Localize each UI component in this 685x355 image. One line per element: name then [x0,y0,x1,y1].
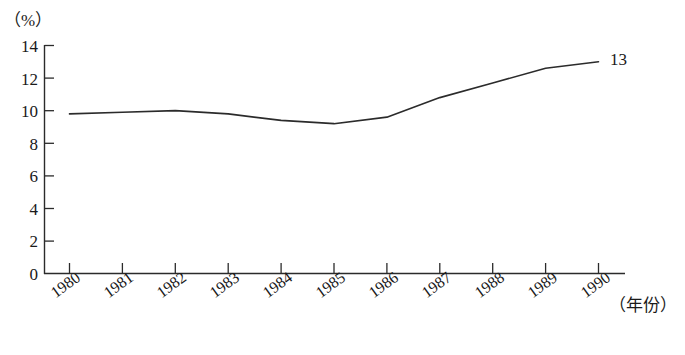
data-series-line [70,62,599,124]
plot-area [0,0,685,355]
line-chart: （%） 14 12 10 8 6 4 2 0 [0,0,685,355]
series-end-value-label: 13 [610,51,627,68]
x-axis-title: （年份） [609,297,677,314]
y-axis-ticks [45,46,55,242]
